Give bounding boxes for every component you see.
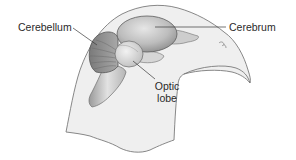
label-cerebellum: Cerebellum xyxy=(18,21,72,33)
label-optic-lobe-line2: lobe xyxy=(152,92,182,104)
label-optic-lobe: Optic lobe xyxy=(152,80,182,104)
label-optic-lobe-line1: Optic xyxy=(152,80,182,92)
label-cerebrum: Cerebrum xyxy=(229,21,276,33)
cerebellum xyxy=(89,32,118,73)
cerebellum-leader-line xyxy=(73,28,97,45)
optic-lobe xyxy=(115,41,143,67)
